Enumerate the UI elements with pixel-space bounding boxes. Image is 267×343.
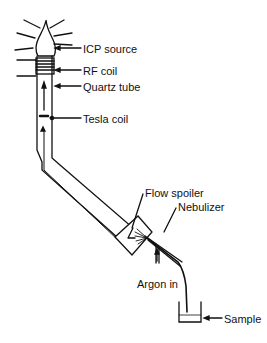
label-tesla-coil: Tesla coil xyxy=(83,113,128,125)
rf-coil xyxy=(17,58,54,76)
label-argon-in: Argon in xyxy=(137,278,178,290)
label-quartz-tube: Quartz tube xyxy=(83,81,140,93)
label-rf-coil: RF coil xyxy=(83,65,117,77)
sample-beaker xyxy=(179,302,201,322)
label-icp-source: ICP source xyxy=(83,43,137,55)
label-nebulizer: Nebulizer xyxy=(178,201,224,213)
radiation-lines xyxy=(15,20,72,50)
label-flow-spoiler: Flow spoiler xyxy=(145,187,204,199)
label-sample: Sample xyxy=(224,313,261,325)
plasma-flame xyxy=(36,20,55,56)
